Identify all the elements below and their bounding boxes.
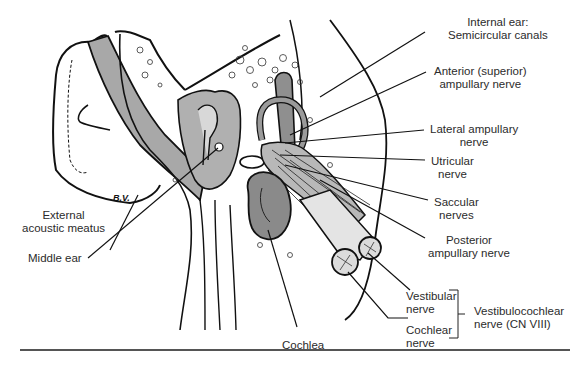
label-line: acoustic meatus [22,222,105,235]
label-anterior-ampullary-nerve: Anterior (superior) ampullary nerve [434,65,527,91]
label-line: nerve [430,136,518,149]
label-line: Internal ear: [448,16,548,29]
label-line: Utricular [431,155,474,168]
label-line: Vestibulocochlear [474,305,564,318]
label-line: ampullary nerve [434,78,527,91]
label-line: nerve [406,303,457,316]
label-line: Anterior (superior) [434,65,527,78]
label-line: Cochlear [406,324,452,337]
label-line: Posterior [428,234,510,247]
label-lateral-ampullary-nerve: Lateral ampullary nerve [430,123,518,149]
cochlea [248,172,291,239]
label-line: Lateral ampullary [430,123,518,136]
label-line: Vestibular [406,290,457,303]
label-utricular-nerve: Utricular nerve [431,155,474,181]
label-saccular-nerves: Saccular nerves [434,196,479,222]
artist-signature: B.V. [113,193,130,203]
label-vestibulocochlear-nerve: Vestibulocochlear nerve (CN VIII) [474,305,564,331]
label-internal-ear: Internal ear: Semicircular canals [448,16,548,42]
bottom-divider [20,349,570,351]
label-line: Semicircular canals [448,29,548,42]
label-middle-ear: Middle ear [28,252,82,265]
label-line: External [22,209,105,222]
label-vestibular-nerve: Vestibular nerve [406,290,457,316]
label-external-acoustic-meatus: External acoustic meatus [22,209,105,235]
label-line: nerves [434,209,479,222]
label-line: ampullary nerve [428,247,510,260]
nerve-trunk [300,190,381,275]
label-line: nerve [431,168,474,181]
label-line: Saccular [434,196,479,209]
label-line: nerve (CN VIII) [474,318,564,331]
label-posterior-ampullary-nerve: Posterior ampullary nerve [428,234,510,260]
label-cochlear-nerve: Cochlear nerve [406,324,452,350]
label-line: Middle ear [28,252,82,265]
